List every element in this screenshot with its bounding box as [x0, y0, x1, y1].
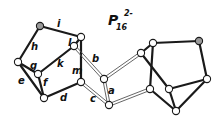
bond-label-g: g	[30, 60, 37, 71]
atom-node-n10	[137, 49, 144, 56]
atom-node-n12	[195, 37, 202, 44]
bond-n12-n13	[199, 41, 207, 79]
atom-node-n2	[77, 33, 84, 40]
atom-node-n3	[70, 42, 77, 49]
bond-label-m: m	[72, 65, 82, 76]
atom-node-n5	[34, 70, 41, 77]
atom-node-n16	[172, 107, 179, 114]
bond-label-d: d	[60, 92, 68, 103]
bond-label-i: i	[57, 18, 61, 29]
atom-node-n7	[40, 94, 47, 101]
bond-labels-layer: ihlgkmbefdac	[18, 18, 115, 104]
bond-n11-n15	[150, 43, 153, 89]
title-superscript: 2-	[124, 9, 133, 18]
title-subscript: 16	[116, 23, 128, 32]
bond-label-k: k	[57, 58, 65, 69]
formula-title: P 16 2-	[108, 9, 133, 32]
atom-node-n8	[100, 75, 107, 82]
polyphosphide-cage-diagram: ihlgkmbefdac P 16 2-	[0, 0, 221, 121]
bond-label-b: b	[92, 53, 99, 64]
bond-i	[40, 26, 81, 37]
atom-node-n14	[165, 85, 172, 92]
atom-node-n15	[146, 85, 153, 92]
bond-n8-n10	[103, 52, 141, 80]
atom-node-n4	[14, 58, 21, 65]
atom-node-n1	[36, 22, 43, 29]
atom-node-n9	[105, 101, 112, 108]
bond-n10-n14	[141, 53, 169, 89]
bond-label-a: a	[108, 85, 115, 96]
bond-k	[38, 46, 74, 74]
bond-label-c: c	[90, 93, 96, 104]
bond-n9-n15	[109, 88, 151, 106]
bond-label-f: f	[43, 77, 49, 88]
bond-label-l: l	[68, 37, 72, 48]
bond-label-h: h	[31, 41, 38, 52]
bond-n11-n12	[153, 41, 199, 43]
atom-node-n13	[203, 75, 210, 82]
atom-node-n6	[77, 78, 84, 85]
atom-node-n11	[149, 39, 156, 46]
bond-label-e: e	[18, 75, 25, 86]
